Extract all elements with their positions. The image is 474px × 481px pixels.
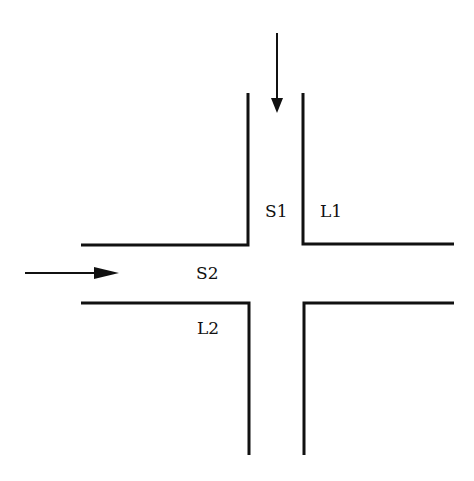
road-edge-top-left [81,93,248,245]
lane-label-l2: L2 [197,320,219,337]
lane-label-s2: S2 [196,265,218,282]
right-arrow-icon [25,267,119,279]
road-edge-bottom-right [304,303,454,455]
intersection-diagram [0,0,474,481]
road-edge-bottom-left [81,303,249,455]
road-edge-top-right [303,93,454,244]
lane-label-s1: S1 [265,203,287,220]
down-arrow-icon [271,33,283,113]
lane-label-l1: L1 [320,203,342,220]
